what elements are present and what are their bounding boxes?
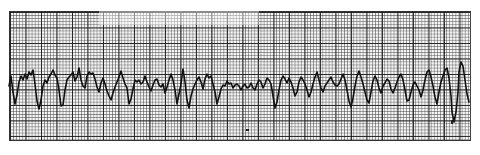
ecg-trace xyxy=(0,0,480,155)
ecg-waveform-line xyxy=(9,62,469,122)
scan-mark xyxy=(451,120,453,124)
scan-mark xyxy=(246,129,249,131)
